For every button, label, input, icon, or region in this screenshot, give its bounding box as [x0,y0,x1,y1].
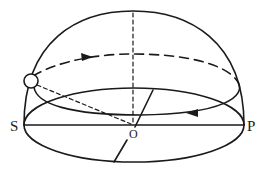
gnomon-line-lower [114,140,127,162]
sun-path-back-dashed [33,54,238,82]
label-south: S [10,118,18,134]
arrow-icon-back [81,53,93,61]
label-north: P [247,118,255,134]
gnomon-line-upper [135,90,153,127]
arrow-icon-front [186,109,198,117]
label-center: O [129,127,138,141]
sun-path-diagram: S P O [0,0,269,173]
sun-icon [24,74,38,88]
